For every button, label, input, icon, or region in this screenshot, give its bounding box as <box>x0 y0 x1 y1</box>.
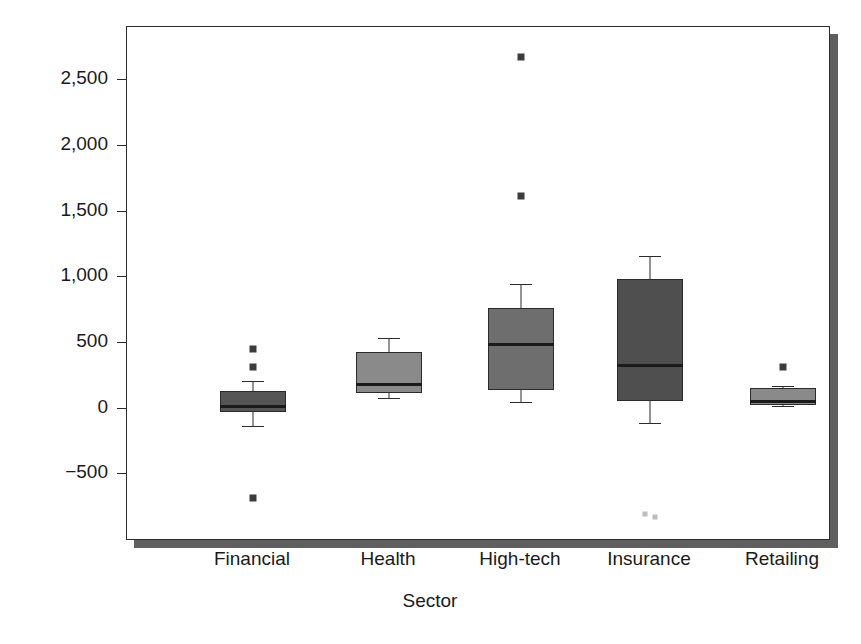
chart-canvas: Net profits ($, millions) Sector −500050… <box>0 0 861 644</box>
whisker-upper-stem <box>650 256 651 279</box>
whisker-lower-cap <box>510 402 532 403</box>
y-axis-tick-label: 500 <box>0 331 108 350</box>
whisker-lower-stem <box>650 401 651 423</box>
median-line <box>488 343 554 346</box>
y-axis-tick-label: 0 <box>0 397 108 416</box>
outlier-point[interactable] <box>250 494 257 501</box>
y-axis-tick-label: −500 <box>0 462 108 481</box>
box-iqr <box>617 279 683 401</box>
whisker-lower-stem <box>521 390 522 402</box>
outlier-point[interactable] <box>643 512 648 517</box>
plot-area <box>127 27 829 539</box>
median-line <box>356 383 422 386</box>
plot-frame <box>126 26 830 540</box>
outlier-point[interactable] <box>653 514 658 519</box>
whisker-lower-cap <box>242 426 264 427</box>
whisker-lower-stem <box>253 412 254 426</box>
whisker-lower-cap <box>639 423 661 424</box>
median-line <box>750 400 816 403</box>
median-line <box>220 405 286 408</box>
y-axis-tick-label: 2,000 <box>0 134 108 153</box>
whisker-upper-cap <box>242 381 264 382</box>
y-axis-tick <box>117 145 127 146</box>
y-axis-tick <box>117 276 127 277</box>
y-axis-tick <box>117 211 127 212</box>
whisker-lower-cap <box>772 406 794 407</box>
x-axis-title: Sector <box>403 590 458 612</box>
whisker-upper-cap <box>510 284 532 285</box>
outlier-point[interactable] <box>780 363 787 370</box>
x-axis-tick-label-insurance: Insurance <box>607 548 690 570</box>
y-axis-tick-label: 2,500 <box>0 68 108 87</box>
box-iqr <box>488 308 554 389</box>
outlier-point[interactable] <box>250 346 257 353</box>
y-axis-tick <box>117 473 127 474</box>
whisker-upper-cap <box>378 338 400 339</box>
y-axis-tick <box>117 342 127 343</box>
whisker-upper-cap <box>639 256 661 257</box>
whisker-upper-stem <box>389 338 390 352</box>
x-axis-tick-label-high-tech: High-tech <box>479 548 560 570</box>
outlier-point[interactable] <box>250 363 257 370</box>
y-axis-tick-label: 1,000 <box>0 265 108 284</box>
outlier-point[interactable] <box>518 193 525 200</box>
box-iqr <box>356 352 422 393</box>
whisker-upper-cap <box>772 386 794 387</box>
whisker-lower-cap <box>378 398 400 399</box>
median-line <box>617 364 683 367</box>
y-axis-tick-label: 1,500 <box>0 200 108 219</box>
outlier-point[interactable] <box>518 53 525 60</box>
x-axis-tick-label-health: Health <box>361 548 416 570</box>
y-axis-tick <box>117 79 127 80</box>
x-axis-tick-label-retailing: Retailing <box>745 548 819 570</box>
y-axis-tick <box>117 408 127 409</box>
whisker-upper-stem <box>521 284 522 309</box>
box-iqr <box>220 391 286 413</box>
whisker-upper-stem <box>253 381 254 391</box>
x-axis-tick-label-financial: Financial <box>214 548 290 570</box>
